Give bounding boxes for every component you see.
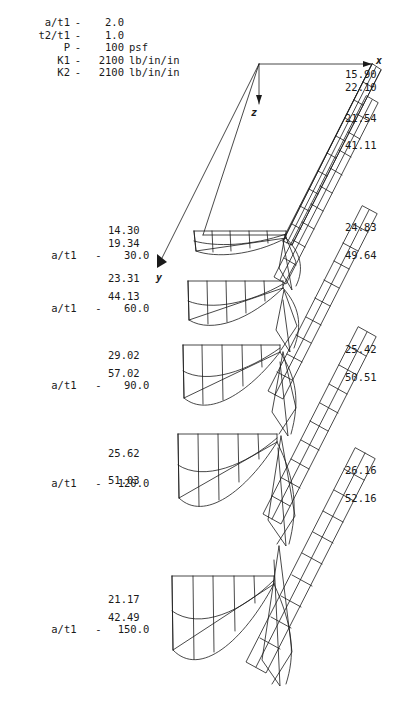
deformed-mesh-2 [188, 281, 283, 325]
axis-label-y: y [156, 272, 162, 283]
left-value-lower-3: 57.02 [108, 367, 140, 379]
fold-crease-lines [262, 235, 297, 686]
left-value-upper-3: 29.02 [108, 349, 140, 361]
figure-canvas: a/t1 - 2.0 t2/t1 - 1.0 P - 100 psf K1 - … [0, 0, 406, 707]
right-value-upper-5: 26.16 [345, 464, 377, 476]
row-label-separator: - [91, 302, 105, 314]
left-value-upper-1: 14.30 [108, 224, 140, 236]
left-value-upper-4: 25.62 [108, 447, 140, 459]
right-value-upper-2: 21.54 [345, 112, 377, 124]
row-label-name: a/t1 [51, 623, 91, 635]
right-value-upper-4: 25.42 [345, 343, 377, 355]
row-label-value: 150.0 [105, 623, 149, 635]
row-label-separator: - [91, 379, 105, 391]
right-value-lower-4: 50.51 [345, 371, 377, 383]
row-label-name: a/t1 [51, 379, 91, 391]
row-label-name: a/t1 [51, 302, 91, 314]
row-label-value: 90.0 [105, 379, 149, 391]
left-value-lower-1: 19.34 [108, 237, 140, 249]
right-value-upper-1: 15.90 [345, 68, 377, 80]
left-value-upper-5: 21.17 [108, 593, 140, 605]
left-value-lower-2: 44.13 [108, 290, 140, 302]
connector-curves [274, 238, 301, 684]
right-value-lower-3: 49.64 [345, 249, 377, 261]
right-value-upper-3: 24.83 [345, 221, 377, 233]
deformed-mesh-4 [178, 434, 277, 506]
row-label-name: a/t1 [51, 249, 91, 261]
row-label-separator: - [91, 623, 105, 635]
row-label-name: a/t1 [51, 477, 91, 489]
axis-label-x: x [376, 55, 382, 66]
right-value-lower-1: 22.10 [345, 81, 377, 93]
left-value-lower-5: 42.49 [108, 611, 140, 623]
axis-x [259, 61, 372, 67]
deformed-mesh-1 [194, 231, 286, 255]
axis-label-z: z [251, 107, 257, 118]
left-value-lower-4: 51.03 [108, 474, 140, 486]
deformed-mesh-5 [172, 576, 274, 660]
right-value-lower-5: 52.16 [345, 492, 377, 504]
row-label-separator: - [91, 249, 105, 261]
row-label-value: 60.0 [105, 302, 149, 314]
row-label-separator: - [91, 477, 105, 489]
deformed-mesh-3 [183, 345, 280, 405]
row-label-value: 30.0 [105, 249, 149, 261]
axis-y [157, 64, 259, 268]
right-value-lower-2: 41.11 [345, 139, 377, 151]
left-value-upper-2: 23.31 [108, 272, 140, 284]
